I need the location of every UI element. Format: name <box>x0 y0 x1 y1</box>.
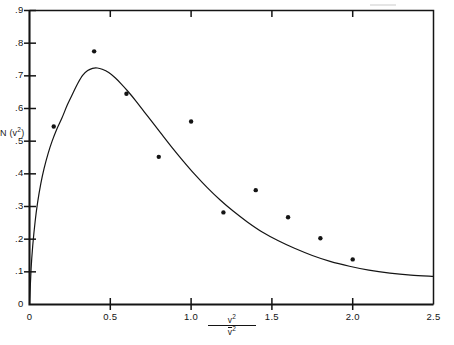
v-bar-symbol: v <box>228 328 232 337</box>
scan-artifact <box>370 4 396 6</box>
x-tick-label: 1.0 <box>176 311 206 322</box>
y-tick-label: .2 <box>2 233 24 244</box>
y-tick-label: .5 <box>2 135 24 146</box>
x-axis-label-numerator: v2 <box>208 314 256 325</box>
data-point <box>92 49 96 53</box>
y-tick-label: .8 <box>2 37 24 48</box>
y-tick-label: .6 <box>2 102 24 113</box>
y-tick-label: .1 <box>2 265 24 276</box>
y-tick-label: 0 <box>2 298 24 309</box>
x-tick-label: 0 <box>15 311 45 322</box>
data-point <box>157 155 161 159</box>
data-point <box>351 257 355 261</box>
chart-figure: N (v2) v2 v2 0.1.2.3.4.5.6.7.8.900.51.01… <box>0 0 454 345</box>
x-axis-label: v2 v2 <box>208 314 256 337</box>
plot-background <box>0 0 454 345</box>
data-point <box>318 236 322 240</box>
data-point <box>286 215 290 219</box>
x-axis-label-denominator: v2 <box>208 325 256 337</box>
data-point <box>52 124 56 128</box>
x-tick-label: 0.5 <box>95 311 125 322</box>
x-tick-label: 2.5 <box>419 311 449 322</box>
y-tick-label: .7 <box>2 69 24 80</box>
scatter-plot-canvas <box>0 0 454 345</box>
x-tick-label: 1.5 <box>257 311 287 322</box>
data-point <box>189 119 193 123</box>
y-tick-label: .3 <box>2 200 24 211</box>
data-point <box>221 210 225 214</box>
y-tick-label: .4 <box>2 167 24 178</box>
data-point <box>124 92 128 96</box>
data-point <box>254 188 258 192</box>
x-tick-label: 2.0 <box>338 311 368 322</box>
y-tick-label: .9 <box>2 4 24 15</box>
